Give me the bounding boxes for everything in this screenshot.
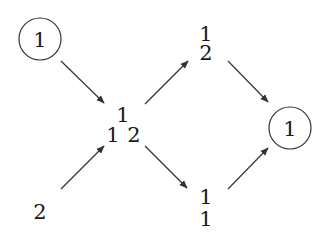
diagram-canvas: 1 2 1 1 2 1 2 1 1 1	[0, 0, 325, 241]
node-bottom-left: 2	[33, 200, 46, 224]
node-center: 1 1 2	[106, 103, 140, 147]
node-top-left: 1	[19, 18, 61, 60]
node-label: 2	[33, 200, 46, 224]
edge-upper-right-to-right	[228, 61, 268, 102]
edge-bottom-left-to-center	[61, 146, 104, 189]
node-label-right: 2	[127, 123, 140, 147]
node-label-bottom: 1	[199, 207, 212, 231]
node-label-bottom: 2	[199, 41, 212, 65]
node-lower-right: 1 1	[199, 185, 212, 231]
node-label: 1	[283, 117, 296, 141]
node-label-left: 1	[106, 123, 119, 147]
edge-center-to-lower-right	[145, 146, 187, 188]
node-right: 1	[269, 107, 311, 149]
node-upper-right: 1 2	[199, 22, 212, 65]
edge-top-left-to-center	[61, 61, 104, 103]
edge-center-to-upper-right	[145, 61, 188, 104]
node-label: 1	[33, 28, 46, 52]
node-label-top: 1	[199, 185, 212, 209]
edge-lower-right-to-right	[228, 148, 268, 189]
